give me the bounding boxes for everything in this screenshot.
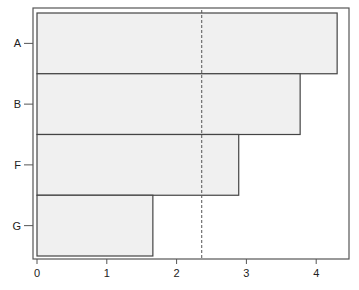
bar-chart: ABFG 01234 — [0, 0, 359, 290]
bar-b — [37, 74, 300, 135]
x-tick-label: 4 — [313, 267, 319, 279]
y-tick-label: G — [12, 220, 21, 232]
x-axis: 01234 — [34, 259, 319, 279]
x-tick-label: 2 — [174, 267, 180, 279]
bars-group — [37, 13, 337, 256]
y-tick-label: A — [14, 37, 22, 49]
x-tick-label: 1 — [104, 267, 110, 279]
y-tick-label: F — [14, 159, 21, 171]
bar-a — [37, 13, 337, 74]
x-tick-label: 0 — [34, 267, 40, 279]
y-axis: ABFG — [12, 37, 33, 231]
bar-g — [37, 195, 153, 256]
bar-f — [37, 135, 239, 196]
y-tick-label: B — [14, 98, 21, 110]
x-tick-label: 3 — [243, 267, 249, 279]
